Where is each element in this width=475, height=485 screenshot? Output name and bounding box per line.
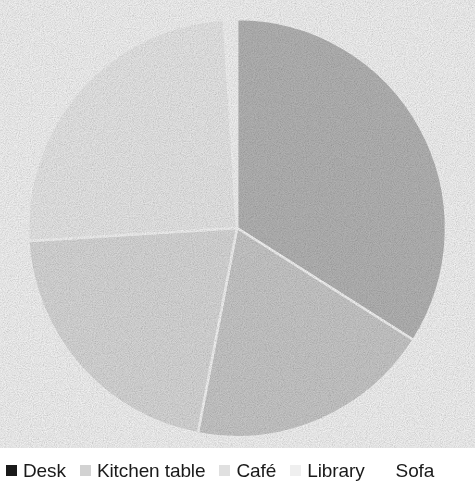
legend-item-caf-[interactable]: Café <box>219 461 276 480</box>
legend-swatch-library <box>290 465 301 476</box>
legend-label: Desk <box>23 461 66 480</box>
pie-chart-figure: DeskKitchen tableCaféLibrarySofa <box>0 0 475 485</box>
legend-item-desk[interactable]: Desk <box>6 461 66 480</box>
legend-item-kitchen-table[interactable]: Kitchen table <box>80 461 206 480</box>
legend-swatch-cafe <box>219 465 230 476</box>
pie-chart-svg <box>0 0 475 448</box>
legend-label: Kitchen table <box>97 461 206 480</box>
legend-item-library[interactable]: Library <box>290 461 364 480</box>
chart-legend: DeskKitchen tableCaféLibrarySofa <box>0 455 475 485</box>
pie-slices-group <box>28 19 446 437</box>
legend-label: Café <box>236 461 276 480</box>
legend-swatch-kitchen-table <box>80 465 91 476</box>
legend-swatch-desk <box>6 465 17 476</box>
legend-label: Library <box>307 461 364 480</box>
legend-swatch-sofa <box>379 465 390 476</box>
pie-slice-library[interactable] <box>28 19 237 241</box>
legend-label: Sofa <box>396 461 435 480</box>
pie-plot-area <box>0 0 475 448</box>
legend-item-sofa[interactable]: Sofa <box>379 461 435 480</box>
